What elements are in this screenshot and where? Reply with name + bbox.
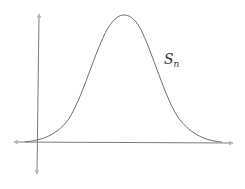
y-axis [37, 16, 39, 172]
curve-label-subscript: n [174, 59, 180, 69]
curve-label: Sn [164, 52, 179, 69]
bell-curve [25, 15, 222, 142]
x-axis [16, 142, 231, 143]
curve-label-base: S [164, 51, 174, 67]
diagram-canvas [0, 0, 245, 189]
